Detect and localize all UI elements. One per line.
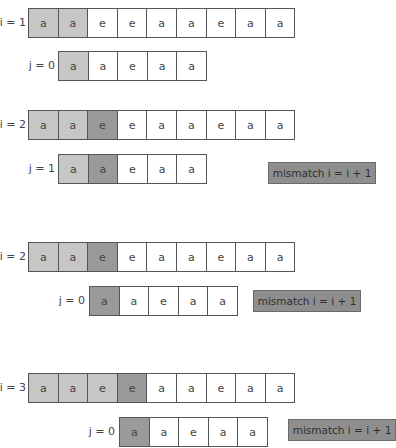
text-cell: a: [58, 8, 89, 38]
text-cell: e: [117, 242, 148, 272]
text-cell: a: [146, 8, 177, 38]
pattern-cell: a: [149, 417, 180, 447]
pattern-array: a a e a a: [119, 417, 268, 447]
pattern-index-label: j = 1: [15, 162, 55, 175]
text-cell: a: [58, 242, 89, 272]
text-cell: e: [87, 8, 118, 38]
text-cell: a: [235, 8, 266, 38]
text-array: a a e e a a e a a: [28, 242, 295, 272]
text-cell: e: [206, 373, 237, 403]
pattern-cell: a: [119, 417, 150, 447]
text-index-label: i = 2: [0, 118, 26, 131]
text-cell: a: [176, 373, 207, 403]
text-cell: a: [58, 110, 89, 140]
text-cell: e: [206, 8, 237, 38]
pattern-index-label: j = 0: [45, 294, 85, 307]
text-cell: a: [235, 242, 266, 272]
text-cell: e: [87, 242, 118, 272]
pattern-array: a a e a a: [89, 286, 238, 316]
text-cell: a: [265, 373, 296, 403]
pattern-cell: e: [117, 51, 148, 81]
pattern-index-label: j = 0: [75, 425, 115, 438]
pattern-cell: e: [117, 154, 148, 184]
pattern-cell: a: [58, 51, 89, 81]
text-index-label: i = 1: [0, 16, 26, 29]
text-cell: a: [235, 110, 266, 140]
text-cell: a: [265, 110, 296, 140]
text-cell: a: [28, 110, 59, 140]
text-array: a a e e a a e a a: [28, 373, 295, 403]
mismatch-note: mismatch i = i + 1: [268, 162, 376, 184]
text-cell: a: [146, 110, 177, 140]
text-cell: e: [206, 110, 237, 140]
text-cell: e: [117, 8, 148, 38]
pattern-cell: a: [88, 51, 119, 81]
pattern-cell: a: [58, 154, 89, 184]
text-cell: a: [235, 373, 266, 403]
text-cell: a: [176, 110, 207, 140]
text-cell: a: [265, 8, 296, 38]
text-cell: a: [146, 373, 177, 403]
pattern-index-label: j = 0: [15, 59, 55, 72]
pattern-cell: a: [88, 154, 119, 184]
pattern-cell: a: [176, 154, 207, 184]
pattern-cell: e: [148, 286, 179, 316]
text-cell: a: [28, 242, 59, 272]
pattern-cell: a: [89, 286, 120, 316]
pattern-array: a a e a a: [58, 51, 207, 81]
text-cell: a: [58, 373, 89, 403]
text-cell: a: [28, 373, 59, 403]
text-cell: e: [87, 110, 118, 140]
text-cell: e: [117, 373, 148, 403]
text-array: a a e e a a e a a: [28, 8, 295, 38]
text-cell: a: [146, 242, 177, 272]
text-cell: a: [265, 242, 296, 272]
text-array: a a e e a a e a a: [28, 110, 295, 140]
text-cell: a: [28, 8, 59, 38]
mismatch-note: mismatch i = i + 1: [288, 419, 396, 441]
text-cell: e: [117, 110, 148, 140]
pattern-cell: a: [207, 286, 238, 316]
pattern-cell: a: [147, 154, 178, 184]
text-cell: a: [176, 8, 207, 38]
text-index-label: i = 2: [0, 250, 26, 263]
text-index-label: i = 3: [0, 381, 26, 394]
pattern-cell: a: [147, 51, 178, 81]
pattern-cell: a: [237, 417, 268, 447]
pattern-cell: e: [178, 417, 209, 447]
text-cell: e: [87, 373, 118, 403]
text-cell: e: [206, 242, 237, 272]
mismatch-note: mismatch i = i + 1: [253, 290, 361, 312]
pattern-cell: a: [119, 286, 150, 316]
pattern-array: a a e a a: [58, 154, 207, 184]
text-cell: a: [176, 242, 207, 272]
pattern-cell: a: [208, 417, 239, 447]
pattern-cell: a: [176, 51, 207, 81]
pattern-cell: a: [178, 286, 209, 316]
